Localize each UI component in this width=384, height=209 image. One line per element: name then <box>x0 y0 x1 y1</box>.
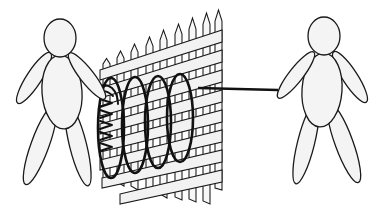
illustration-root <box>0 0 384 209</box>
left-figure <box>11 19 110 188</box>
left-figure-head <box>44 19 76 57</box>
right-figure <box>273 17 373 186</box>
scene-canvas <box>0 0 384 209</box>
right-figure-head <box>308 17 340 55</box>
